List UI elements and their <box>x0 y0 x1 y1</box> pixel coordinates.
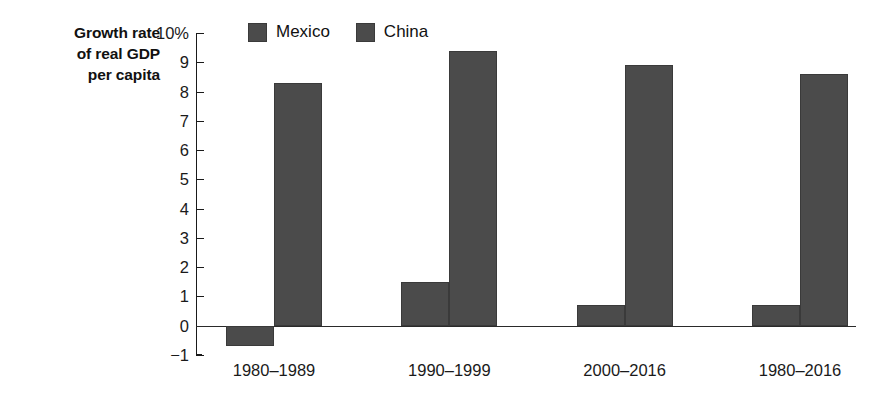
bar-china-0 <box>274 83 322 326</box>
y-tick-mark <box>196 150 204 151</box>
y-tick-label: 0 <box>180 316 189 335</box>
y-tick-mark <box>196 92 204 93</box>
bar-mexico-2 <box>577 305 625 325</box>
y-tick-mark <box>196 355 204 356</box>
y-tick-label: 8 <box>180 82 189 101</box>
y-tick-mark <box>196 209 204 210</box>
y-tick-label: 3 <box>180 228 189 247</box>
x-category-label-2: 2000–2016 <box>559 361 691 380</box>
y-tick-label: 6 <box>180 141 189 160</box>
y-tick-label: −1 <box>170 346 189 365</box>
x-category-label-1: 1990–1999 <box>383 361 515 380</box>
bar-china-2 <box>625 65 673 326</box>
bar-china-1 <box>449 51 497 326</box>
y-tick-label: 2 <box>180 258 189 277</box>
y-tick-label: 7 <box>180 111 189 130</box>
y-axis-title-line-2: of real GDP <box>10 43 160 64</box>
y-tick-mark <box>196 179 204 180</box>
bar-mexico-3 <box>752 305 800 325</box>
y-axis-title-line-1: Growth rate <box>10 22 160 43</box>
bar-china-3 <box>800 74 848 326</box>
x-category-label-3: 1980–2016 <box>734 361 866 380</box>
y-tick-label: 10% <box>156 24 189 43</box>
y-tick-mark <box>196 62 204 63</box>
zero-baseline <box>196 326 856 327</box>
y-tick-label: 5 <box>180 170 189 189</box>
bar-mexico-0 <box>226 326 274 346</box>
y-axis-title-line-3: per capita <box>10 64 160 85</box>
chart-plot-area: 10%9876543210−1 1980–19891990–19992000–2… <box>196 33 856 355</box>
y-tick-label: 4 <box>180 199 189 218</box>
bar-mexico-1 <box>401 282 449 326</box>
y-axis-spine <box>196 33 197 355</box>
x-category-label-0: 1980–1989 <box>208 361 340 380</box>
y-tick-mark <box>196 296 204 297</box>
y-tick-label: 9 <box>180 53 189 72</box>
y-tick-mark <box>196 238 204 239</box>
y-tick-mark <box>196 121 204 122</box>
y-tick-label: 1 <box>180 287 189 306</box>
y-axis-title: Growth rate of real GDP per capita <box>10 22 160 85</box>
y-tick-mark <box>196 267 204 268</box>
y-tick-mark <box>196 33 204 34</box>
